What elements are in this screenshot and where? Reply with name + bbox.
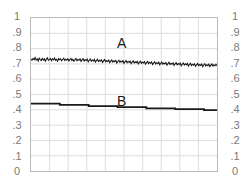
y-tick-label: .1: [4, 151, 30, 162]
y-tick-label: .3: [4, 120, 30, 131]
y-tick-label: .9: [4, 27, 30, 38]
y-tick-label: .3: [222, 120, 248, 131]
y-tick-label: .4: [4, 104, 30, 115]
series-label-b: B: [117, 94, 126, 108]
y-tick-label: 0: [222, 166, 248, 177]
y-tick-label: .6: [4, 73, 30, 84]
y-tick-label: 1: [4, 11, 30, 22]
series-label-a: A: [117, 36, 126, 50]
y-tick-label: .7: [222, 58, 248, 69]
y-tick-label: .2: [4, 135, 30, 146]
y-tick-label: 1: [222, 11, 248, 22]
y-tick-label: .5: [222, 89, 248, 100]
y-tick-label: .7: [4, 58, 30, 69]
y-tick-label: .8: [4, 42, 30, 53]
y-axis-right: 1.9.8.7.6.5.4.3.2.10: [222, 0, 248, 191]
y-tick-label: .8: [222, 42, 248, 53]
y-tick-label: .5: [4, 89, 30, 100]
y-tick-label: .6: [222, 73, 248, 84]
y-tick-label: .4: [222, 104, 248, 115]
y-tick-label: 0: [4, 166, 30, 177]
y-axis-left: 1.9.8.7.6.5.4.3.2.10: [4, 0, 30, 191]
y-tick-label: .1: [222, 151, 248, 162]
y-tick-label: .2: [222, 135, 248, 146]
y-tick-label: .9: [222, 27, 248, 38]
chart-container: 1.9.8.7.6.5.4.3.2.10 1.9.8.7.6.5.4.3.2.1…: [0, 0, 252, 191]
